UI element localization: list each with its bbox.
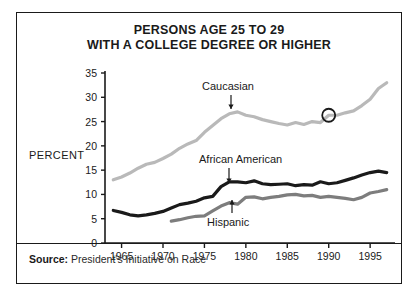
source-divider xyxy=(17,243,401,244)
series-line-hispanic xyxy=(171,190,386,222)
series-label-caucasian: Caucasian xyxy=(202,80,254,92)
series-label-hispanic: Hispanic xyxy=(207,216,249,228)
source-text: President's Initiative on Race xyxy=(71,253,206,265)
x-tick-label: 1985 xyxy=(276,250,300,262)
x-tick-label: 1995 xyxy=(358,250,382,262)
series-line-african-american xyxy=(113,171,386,216)
series-line-caucasian xyxy=(113,83,386,180)
x-tick-label: 1980 xyxy=(234,250,258,262)
y-tick-label: 15 xyxy=(85,164,97,176)
line-chart-svg: 0510152025303519651970197519801985199019… xyxy=(17,13,403,285)
pointer-arrow-caucasian-head xyxy=(228,105,233,110)
source-label: Source: xyxy=(29,253,68,265)
y-tick-label: 25 xyxy=(85,116,97,128)
x-tick-label: 1990 xyxy=(317,250,341,262)
chart-screenshot: PERSONS AGE 25 TO 29 WITH A COLLEGE DEGR… xyxy=(0,0,419,296)
y-tick-label: 30 xyxy=(85,91,97,103)
y-tick-label: 20 xyxy=(85,140,97,152)
source-note: Source: President's Initiative on Race xyxy=(29,253,206,265)
pointer-arrow-caucasian xyxy=(228,95,233,109)
y-tick-label: 10 xyxy=(85,188,97,200)
y-tick-label: 5 xyxy=(91,213,97,225)
plot-area: 0510152025303519651970197519801985199019… xyxy=(17,13,403,285)
y-tick-label: 35 xyxy=(85,67,97,79)
chart-frame: PERSONS AGE 25 TO 29 WITH A COLLEGE DEGR… xyxy=(16,12,402,284)
series-label-african-american: African American xyxy=(199,153,282,165)
